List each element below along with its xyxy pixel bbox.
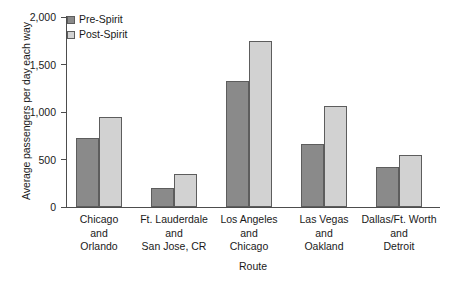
x-axis-line	[66, 207, 440, 208]
y-axis-tick-label: 1,000	[0, 107, 56, 118]
y-axis-tick-label: 1,500	[0, 60, 56, 71]
legend-item-pre-spirit: Pre-Spirit	[67, 13, 127, 26]
y-axis-tick-label: 500	[0, 155, 56, 166]
bar-group	[301, 17, 353, 207]
plot-area	[66, 17, 440, 207]
legend: Pre-Spirit Post-Spirit	[67, 13, 127, 43]
legend-swatch-icon-pre-spirit	[67, 16, 75, 24]
bar-post-spirit	[174, 174, 197, 207]
x-axis-title: Route	[66, 260, 440, 272]
bar-group	[376, 17, 428, 207]
y-axis-tick-label: 0	[0, 202, 56, 213]
bar-group	[76, 17, 128, 207]
bar-pre-spirit	[226, 81, 249, 207]
bar-post-spirit	[99, 117, 122, 207]
y-axis-tick-label: 2,000	[0, 12, 56, 23]
legend-label-post-spirit: Post-Spirit	[79, 29, 127, 40]
bar-pre-spirit	[76, 138, 99, 207]
bar-group	[226, 17, 278, 207]
legend-label-pre-spirit: Pre-Spirit	[79, 14, 123, 25]
legend-swatch-icon-post-spirit	[67, 31, 75, 39]
x-axis-category-label: Dallas/Ft. Worth and Detroit	[351, 213, 447, 254]
bar-post-spirit	[399, 155, 422, 207]
bar-pre-spirit	[301, 144, 324, 207]
bar-chart: Average passengers per day each way 0500…	[0, 0, 450, 285]
bar-post-spirit	[324, 106, 347, 207]
bar-pre-spirit	[151, 188, 174, 207]
bar-group	[151, 17, 203, 207]
bar-pre-spirit	[376, 167, 399, 207]
legend-item-post-spirit: Post-Spirit	[67, 28, 127, 41]
bar-post-spirit	[249, 41, 272, 207]
